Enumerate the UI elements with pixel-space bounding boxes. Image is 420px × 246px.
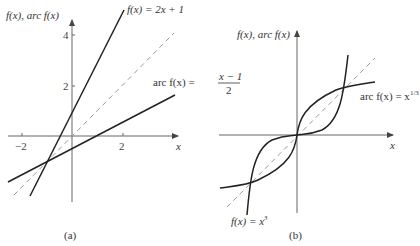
curve-label-x-cubed: f(x) = x3	[231, 214, 268, 228]
y-axis-label: f(x), arc f(x)	[6, 9, 59, 22]
panel-a: −2 2 4 2 x f(x), arc f(x) f(x) = 2x + 1 …	[6, 3, 242, 242]
panel-b: x f(x), arc f(x) arc f(x) = x1/3 f(x) = …	[219, 28, 419, 242]
caption-b: (b)	[289, 229, 302, 242]
x-axis-label: x	[175, 140, 181, 152]
y-tick-label: 2	[63, 80, 69, 92]
curve-f-2x-plus-1	[30, 10, 124, 196]
figure-canvas: −2 2 4 2 x f(x), arc f(x) f(x) = 2x + 1 …	[0, 0, 420, 246]
curve-label-cube-root: arc f(x) = x1/3	[360, 89, 419, 103]
identity-line	[14, 33, 174, 195]
curve-label-arc-denominator: 2	[226, 84, 232, 96]
curve-label-arc-numerator: x − 1	[218, 70, 242, 82]
x-tick-label: −2	[15, 140, 27, 152]
x-axis-label: x	[389, 139, 395, 151]
x-tick-label: 2	[119, 140, 125, 152]
curve-arc-f	[8, 95, 175, 182]
identity-line	[227, 58, 375, 207]
y-axis-label: f(x), arc f(x)	[237, 28, 290, 41]
curve-label-f: f(x) = 2x + 1	[127, 3, 184, 16]
curve-label-arc-prefix: arc f(x) =	[153, 76, 195, 89]
y-tick-label: 4	[63, 29, 69, 41]
caption-a: (a)	[64, 229, 77, 242]
